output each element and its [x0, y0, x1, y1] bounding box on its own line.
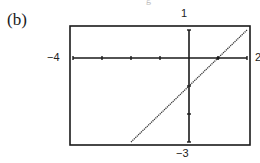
graph-window — [0, 0, 260, 163]
x-intercept-point — [216, 56, 219, 59]
window-frame — [70, 26, 250, 145]
